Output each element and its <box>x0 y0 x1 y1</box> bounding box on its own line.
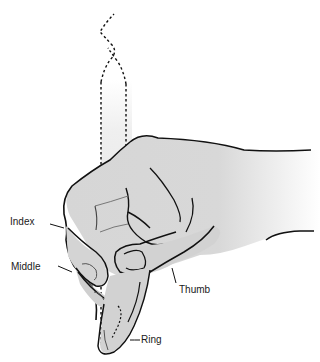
hand-drawing <box>0 0 320 362</box>
index-label: Index <box>10 217 34 227</box>
middle-leader <box>58 266 72 272</box>
ring-label: Ring <box>141 335 162 345</box>
thumb-leader <box>172 268 176 283</box>
hand-pencil-illustration <box>0 0 320 362</box>
thumb-label: Thumb <box>179 285 210 295</box>
middle-label: Middle <box>11 262 40 272</box>
index-leader <box>50 224 64 228</box>
